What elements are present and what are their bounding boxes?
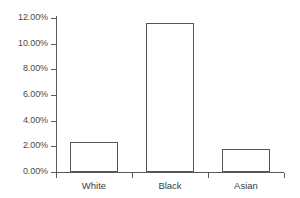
y-axis-tick-label: 2.00%	[23, 141, 48, 150]
y-axis-tick	[51, 146, 56, 147]
y-axis-tick	[51, 121, 56, 122]
category-label-black: Black	[132, 180, 208, 191]
x-axis-tick	[284, 173, 285, 178]
y-axis-line	[56, 16, 57, 173]
y-axis-tick-label: 8.00%	[23, 64, 48, 73]
bar-black	[146, 23, 194, 172]
x-axis-tick	[56, 173, 57, 178]
y-axis-tick-label: 10.00%	[18, 39, 48, 48]
y-axis-tick	[51, 69, 56, 70]
category-label-asian: Asian	[208, 180, 284, 191]
y-axis-tick-label: 0.00%	[23, 167, 48, 176]
category-label-white: White	[56, 180, 132, 191]
x-axis-tick	[132, 173, 133, 178]
y-axis-tick	[51, 44, 56, 45]
y-axis-tick	[51, 18, 56, 19]
x-axis-tick	[208, 173, 209, 178]
y-axis-tick-label: 6.00%	[23, 90, 48, 99]
bar-chart: 0.00%2.00%4.00%6.00%8.00%10.00%12.00% Wh…	[0, 0, 300, 198]
y-axis-tick-label: 4.00%	[23, 116, 48, 125]
y-axis-tick-label: 12.00%	[18, 13, 48, 22]
y-axis-tick	[51, 95, 56, 96]
x-axis-line	[56, 172, 284, 173]
bar-asian	[222, 149, 270, 172]
bar-white	[70, 142, 118, 172]
